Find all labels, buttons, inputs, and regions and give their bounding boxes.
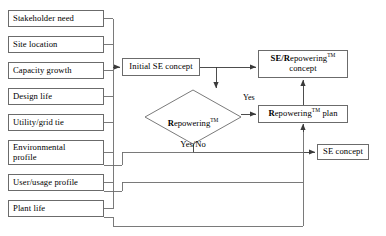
input-box-capacity-growth: Capacity growth [8,62,104,79]
process-label-initial-se-concept: Initial SE concept [129,62,192,72]
trademark-superscript: TM [327,53,335,59]
input-box-design-life: Design life [8,88,104,105]
process-box-initial-se-concept: Initial SE concept [122,58,200,76]
se-repowering-bold-prefix: SE/R [271,53,291,63]
input-box-utility-grid-tie: Utility/grid tie [8,114,104,131]
input-label-plant-life: Plant life [13,204,45,214]
input-box-stakeholder-need: Stakeholder need [8,10,104,27]
input-label-utility-grid-tie: Utility/grid tie [13,118,64,128]
process-label-repowering-plan: RepoweringTM plan [268,109,337,119]
decision-rest: epowering [174,118,210,128]
input-label-capacity-growth: Capacity growth [13,66,72,76]
decision-label-repowering: RepoweringTM Yes/No [153,107,233,161]
repowering-plan-rest: epowering [275,108,312,118]
input-label-design-life: Design life [13,92,52,102]
repowering-plan-suffix: plan [320,108,337,118]
input-label-user-usage-profile: User/usage profile [13,178,78,188]
edge-feedback-plant-life [104,217,303,226]
input-box-plant-life: Plant life [8,200,104,217]
decision-label-line1: RepoweringTM [153,118,233,129]
input-label-environmental-profile: Environmental profile [13,143,65,162]
process-box-repowering-plan: RepoweringTM plan [258,105,348,123]
input-label-site-location: Site location [13,40,58,50]
se-repowering-rest: epowering [290,53,327,63]
trademark-superscript: TM [210,117,218,123]
input-box-environmental-profile: Environmental profile [8,140,104,165]
process-label-se-repowering-concept-line2: concept [289,64,316,74]
input-box-user-usage-profile: User/usage profile [8,174,104,191]
process-box-se-concept: SE concept [317,144,369,160]
process-box-se-repowering-concept: SE/RepoweringTM concept [258,50,348,78]
decision-label-line2: Yes/No [153,139,233,150]
edge-feedback-user-usage-profile [104,182,303,191]
input-box-site-location: Site location [8,36,104,53]
edge-label-yes: Yes [243,93,255,102]
input-label-stakeholder-need: Stakeholder need [13,14,74,24]
process-label-se-concept: SE concept [323,147,363,157]
trademark-superscript: TM [312,107,320,113]
